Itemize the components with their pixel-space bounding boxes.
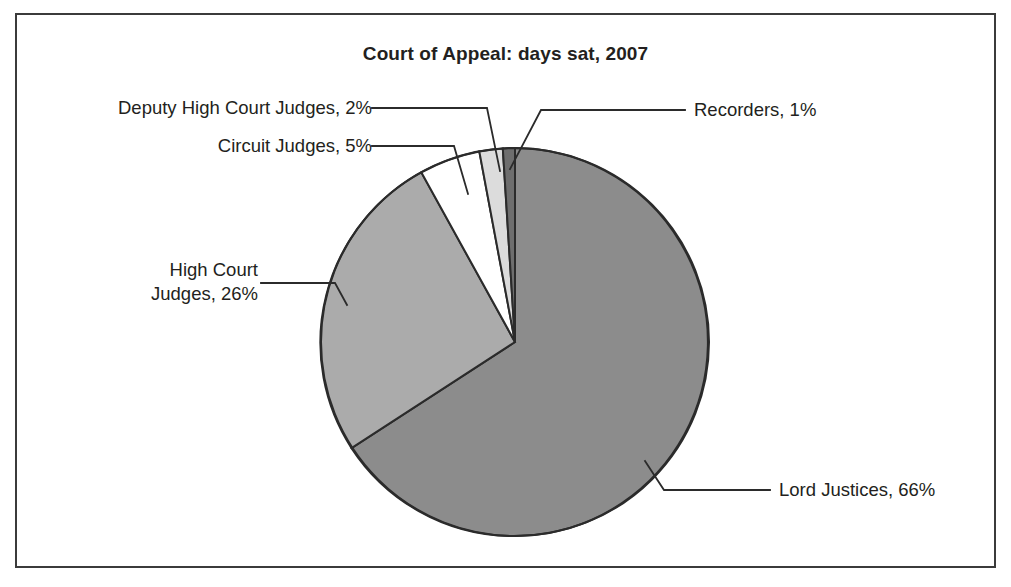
pie-label-high-court-judges: High Court Judges, 26%	[151, 258, 258, 305]
pie-label-high-court-judges-line2: Judges, 26%	[151, 282, 258, 306]
pie-label-recorders: Recorders, 1%	[694, 98, 816, 122]
pie-label-deputy-high-court-judges: Deputy High Court Judges, 2%	[118, 96, 372, 120]
pie-label-high-court-judges-line1: High Court	[151, 258, 258, 282]
pie-chart-figure: Court of Appeal: days sat, 2007 Deputy H…	[0, 0, 1011, 587]
pie-label-circuit-judges: Circuit Judges, 5%	[218, 134, 372, 158]
pie-label-lord-justices: Lord Justices, 66%	[779, 478, 935, 502]
